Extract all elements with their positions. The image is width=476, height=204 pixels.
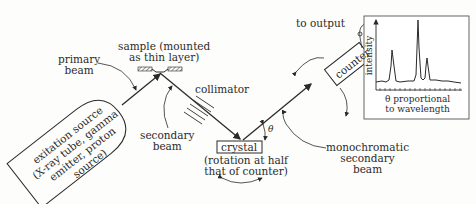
secondary-beam-label: secondary beam xyxy=(140,130,195,152)
mono-beam-label: monochromatic secondary beam xyxy=(326,142,409,175)
sample-mount-left xyxy=(138,67,152,71)
collimator-plates xyxy=(184,96,214,124)
primary-beam-leader xyxy=(98,63,136,90)
inset-xlabel-line2: to wavelength xyxy=(385,104,450,114)
sample-label: sample (mounted as thin layer) xyxy=(118,41,210,63)
monochromatic-beam-line xyxy=(243,84,311,140)
mono-beam-label-line3: beam xyxy=(326,164,409,175)
theta-label: θ xyxy=(268,124,273,135)
inset-xlabel-line1: θ proportional xyxy=(385,94,450,104)
collimator-label: collimator xyxy=(195,84,249,95)
inset-ylabel: intensity xyxy=(364,36,375,76)
sample-label-line2: as thin layer) xyxy=(118,52,210,63)
primary-beam-label: primary beam xyxy=(58,54,100,76)
crystal-label: crystal xyxy=(221,142,257,153)
primary-beam-label-line2: beam xyxy=(58,65,100,76)
to-output-label: to output xyxy=(296,18,345,29)
primary-beam-line xyxy=(122,74,160,105)
crystal-note: (rotation at half that of counter) xyxy=(204,155,288,177)
sample-mount-right xyxy=(168,67,182,71)
xrf-diagram: primary beam sample (mounted as thin lay… xyxy=(0,0,476,204)
secondary-beam-leader xyxy=(164,86,172,128)
mono-beam-leader xyxy=(283,112,326,148)
secondary-beam-label-line2: beam xyxy=(140,141,195,152)
crystal-note-line2: that of counter) xyxy=(204,166,288,177)
inset-xlabel: θ proportional to wavelength xyxy=(385,94,450,114)
